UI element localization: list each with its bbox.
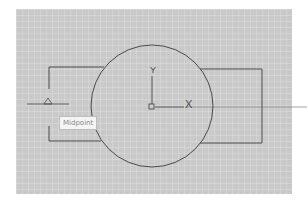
drawing-geometry: Y X xyxy=(0,0,307,206)
midpoint-snap-marker-icon xyxy=(44,98,52,104)
right-rectangle xyxy=(200,69,262,143)
ucs-origin-box-icon xyxy=(149,104,154,109)
osnap-tooltip: Midpoint xyxy=(59,116,97,130)
circle xyxy=(91,45,213,167)
ucs-y-label: Y xyxy=(150,65,156,75)
ucs-x-label: X xyxy=(185,98,193,110)
left-rectangle-top xyxy=(49,67,104,89)
